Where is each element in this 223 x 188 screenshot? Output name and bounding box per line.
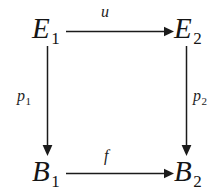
- edge-label-p1-base: p: [17, 87, 25, 104]
- node-b2: B2: [174, 157, 201, 186]
- edge-label-f: f: [104, 148, 108, 164]
- edge-label-p1: p1: [17, 88, 31, 104]
- node-b1-base: B: [32, 155, 50, 187]
- commutative-diagram: E1 E2 B1 B2 u f p1 p2: [0, 0, 223, 188]
- arrow-f-head: [164, 169, 174, 178]
- node-e1-base: E: [32, 12, 50, 44]
- edge-label-p2-subscript: 2: [202, 95, 208, 107]
- node-b2-base: B: [174, 155, 192, 187]
- node-e1-subscript: 1: [51, 29, 60, 48]
- edge-label-p2-base: p: [193, 87, 201, 104]
- node-b1-subscript: 1: [51, 172, 60, 188]
- edge-label-u-base: u: [101, 3, 109, 20]
- arrow-p1: [43, 46, 53, 156]
- edge-label-f-base: f: [104, 147, 108, 164]
- node-b2-subscript: 2: [193, 172, 202, 188]
- node-e2-subscript: 2: [193, 29, 202, 48]
- edge-label-p1-subscript: 1: [26, 95, 32, 107]
- edge-label-u: u: [101, 4, 109, 20]
- arrow-p2: [182, 46, 192, 156]
- arrow-u: [66, 27, 174, 36]
- node-e2-base: E: [174, 12, 192, 44]
- arrow-f: [66, 169, 174, 178]
- edge-label-p2: p2: [193, 88, 207, 104]
- node-b1: B1: [32, 157, 59, 186]
- node-e1: E1: [32, 14, 59, 43]
- arrow-u-head: [164, 27, 174, 36]
- node-e2: E2: [174, 14, 201, 43]
